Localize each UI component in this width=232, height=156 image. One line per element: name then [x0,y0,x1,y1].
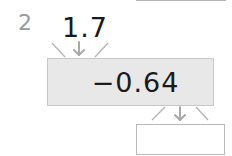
funnel-line-left-bottom [152,107,165,120]
funnel-line-left-top [52,43,65,57]
down-arrow-icon [74,42,84,55]
operation-box: −0.64 [47,58,214,106]
funnel-line-right-bottom [196,107,208,120]
funnel-line-right-top [95,43,108,57]
down-arrow-icon [175,107,185,120]
answer-box[interactable] [136,124,225,155]
operation-label: −0.64 [82,67,180,98]
